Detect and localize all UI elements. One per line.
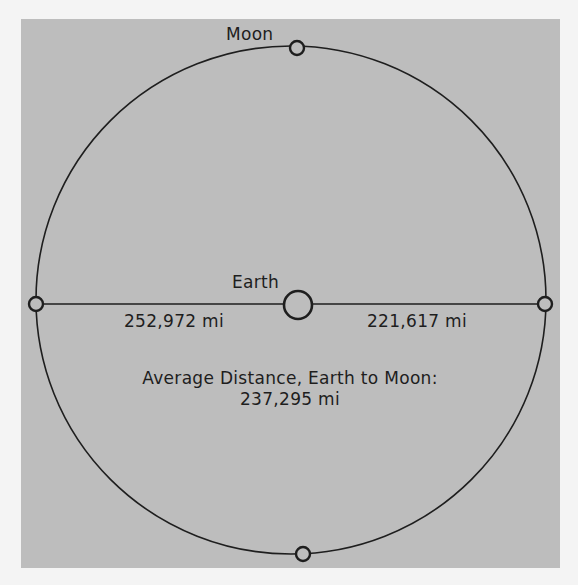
earth-icon bbox=[284, 291, 312, 319]
moon-label: Moon bbox=[226, 24, 273, 44]
moon-top-icon bbox=[290, 41, 304, 55]
moon-right-icon bbox=[538, 297, 552, 311]
perigee-distance-label: 221,617 mi bbox=[367, 311, 467, 331]
moon-bottom-icon bbox=[296, 547, 310, 561]
apogee-distance-label: 252,972 mi bbox=[124, 311, 224, 331]
earth-label: Earth bbox=[232, 272, 279, 292]
orbit-diagram bbox=[0, 0, 578, 585]
average-distance-value: 237,295 mi bbox=[240, 389, 340, 409]
moon-left-icon bbox=[29, 297, 43, 311]
average-distance-title: Average Distance, Earth to Moon: bbox=[142, 368, 437, 388]
